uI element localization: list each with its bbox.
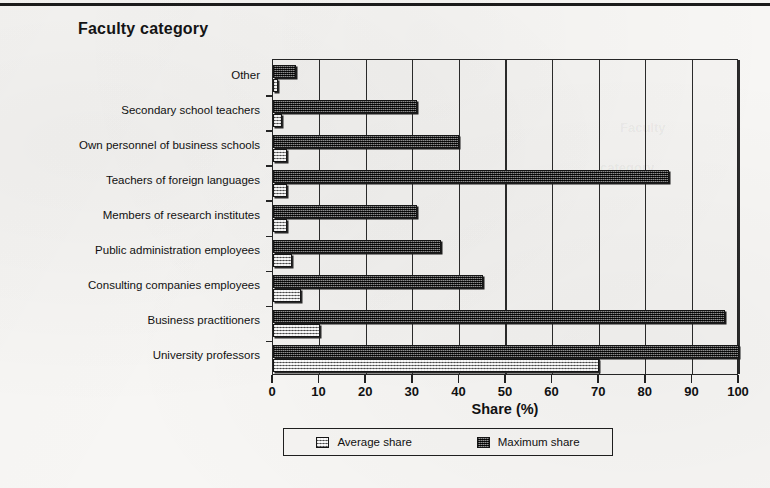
y-axis-tick [266, 165, 273, 167]
x-axis-tick [271, 375, 273, 383]
bar-maximum-share [273, 100, 417, 113]
x-axis-tick [737, 375, 739, 383]
y-axis-tick [266, 236, 273, 238]
bar-row [273, 95, 737, 130]
category-label: Other [231, 69, 260, 81]
x-axis-tick-labels: 0102030405060708090100 [272, 384, 738, 400]
category-label: University professors [153, 349, 260, 361]
x-axis-tick-label: 60 [544, 384, 558, 399]
bar-row [273, 60, 737, 95]
bar-row [273, 271, 737, 306]
dark-checker-swatch-icon [477, 437, 490, 448]
y-axis-tick [266, 200, 273, 202]
bar-row [273, 130, 737, 165]
bar-maximum-share [273, 65, 296, 78]
bar-maximum-share [273, 275, 483, 288]
legend-item-maximum: Maximum share [477, 436, 580, 448]
x-axis-tick-label: 90 [684, 384, 698, 399]
bar-maximum-share [273, 310, 725, 323]
x-axis-tick [458, 375, 460, 383]
x-axis-tick-label: 50 [498, 384, 512, 399]
gridline [738, 60, 739, 374]
bar-row [273, 236, 737, 271]
bar-average-share [273, 289, 301, 302]
y-axis-tick [266, 306, 273, 308]
x-axis-tick [597, 375, 599, 383]
chart-legend: Average share Maximum share [283, 428, 613, 456]
bar-average-share [273, 79, 278, 92]
category-label: Consulting companies employees [88, 279, 260, 291]
category-label: Members of research institutes [103, 209, 260, 221]
x-axis-tick [318, 375, 320, 383]
x-axis-tick [644, 375, 646, 383]
category-label: Own personnel of business schools [79, 139, 260, 151]
bar-row [273, 165, 737, 200]
y-axis-tick [266, 95, 273, 97]
bar-average-share [273, 359, 599, 372]
bar-maximum-share [273, 345, 739, 358]
page-title: Faculty category [78, 20, 208, 38]
x-axis-tick [551, 375, 553, 383]
bar-average-share [273, 324, 320, 337]
legend-item-average: Average share [316, 436, 412, 448]
x-axis-tick-label: 100 [727, 384, 749, 399]
y-axis-tick [266, 271, 273, 273]
chart-page: Faculty category Faculty category OtherS… [0, 0, 770, 488]
x-axis-tick [411, 375, 413, 383]
bar-maximum-share [273, 170, 669, 183]
x-axis-tick [504, 375, 506, 383]
x-axis-tick-label: 80 [638, 384, 652, 399]
category-label: Teachers of foreign languages [106, 174, 260, 186]
plot-area [272, 59, 738, 375]
x-axis-tick-label: 30 [405, 384, 419, 399]
bar-average-share [273, 184, 287, 197]
legend-label-average: Average share [337, 436, 412, 448]
y-axis-tick [266, 130, 273, 132]
y-axis-tick [266, 341, 273, 343]
bar-row [273, 200, 737, 235]
x-axis-tick-label: 0 [268, 384, 275, 399]
x-axis-tick [691, 375, 693, 383]
bar-average-share [273, 149, 287, 162]
x-axis-tick-label: 70 [591, 384, 605, 399]
legend-label-maximum: Maximum share [498, 436, 580, 448]
bar-average-share [273, 254, 292, 267]
x-axis-tick-label: 10 [311, 384, 325, 399]
x-axis-title: Share (%) [272, 401, 738, 417]
x-axis-ticks [272, 375, 738, 383]
bar-maximum-share [273, 135, 459, 148]
x-axis-tick-label: 40 [451, 384, 465, 399]
bar-maximum-share [273, 205, 417, 218]
x-axis-tick-label: 20 [358, 384, 372, 399]
bar-average-share [273, 219, 287, 232]
x-axis-tick [364, 375, 366, 383]
light-checker-swatch-icon [316, 437, 329, 448]
bar-row [273, 306, 737, 341]
category-label: Secondary school teachers [121, 104, 260, 116]
bar-row [273, 341, 737, 376]
category-label: Business practitioners [148, 314, 261, 326]
category-label: Public administration employees [95, 244, 260, 256]
page-top-rule [0, 3, 770, 6]
bar-maximum-share [273, 240, 441, 253]
bar-average-share [273, 114, 282, 127]
